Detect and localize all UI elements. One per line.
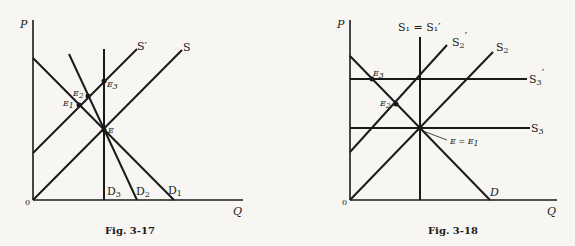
q-axis-label: Q [547,205,556,218]
origin-label: 0 [342,198,347,207]
p-axis-label: P [19,18,28,31]
s2-label: S2 [496,41,509,55]
e-label: E [107,126,114,135]
s2-prime-label: S2′ [452,30,468,50]
equilibrium-point-e [102,128,107,133]
s-label: S [183,41,191,54]
e1-label: E1 [62,99,74,110]
p-axis-label: P [336,18,345,31]
q-axis-label: Q [233,205,242,218]
equilibrium-point-e [418,126,423,131]
supply-curve-s [33,50,182,200]
equilibrium-point-e2 [86,94,91,99]
s-prime-label: S′ [137,40,148,53]
d3-label: D3 [107,185,121,199]
figure-3-17: P Q 0 S′ S D3 D2 D1 E E1 E2 E3 Fig. 3-17 [19,18,243,236]
e3-label: E3 [106,80,118,91]
equilibrium-point-e2 [394,102,399,107]
d-label: D [489,186,499,199]
figure-caption: Fig. 3-17 [105,225,155,236]
diagrams-canvas: P Q 0 S′ S D3 D2 D1 E E1 E2 E3 Fig. 3-17… [0,0,575,246]
e-equals-e1-label: E = E1 [449,137,479,148]
d1-label: D1 [168,184,182,198]
e2-label: E2 [379,99,391,110]
supply-curve-s-prime [33,49,137,153]
figure-caption: Fig. 3-18 [428,225,478,236]
supply-curve-s2-prime [350,45,447,152]
origin-label: 0 [25,198,30,207]
equilibrium-point-e3 [102,79,107,84]
s3-prime-label: S3′ [529,67,545,87]
figure-3-18: P Q 0 S₁ = S₁′ S2′ S2 S3′ S3 D E = E1 E2… [336,18,557,236]
d2-label: D2 [136,185,150,199]
s1-equals-s1-prime-label: S₁ = S₁′ [398,21,441,34]
s3-label: S3 [531,122,544,136]
equilibrium-point-e1 [77,103,82,108]
